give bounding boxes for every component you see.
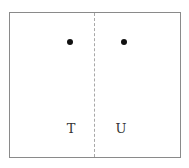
dashed-divider bbox=[94, 13, 95, 157]
diagram-frame: T U bbox=[9, 12, 181, 158]
label-right: U bbox=[116, 122, 127, 135]
point-left bbox=[67, 39, 73, 45]
label-left: T bbox=[67, 122, 76, 135]
point-right bbox=[121, 39, 127, 45]
